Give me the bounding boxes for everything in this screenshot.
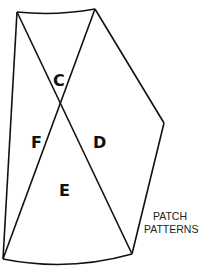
left-edge (3, 12, 17, 259)
patch-label-c: C (53, 71, 65, 90)
caption-line-2: PATTERNS (144, 223, 198, 235)
pattern-outline (3, 9, 164, 264)
bottom-edge-curve (3, 254, 132, 264)
patch-label-d: D (93, 133, 106, 152)
top-edge-curve (17, 9, 95, 13)
patch-label-e: E (59, 181, 70, 200)
diagonal-topright-bottomleft (3, 9, 95, 259)
caption-line-1: PATCH (153, 210, 187, 222)
patch-patterns-diagram: C F D E PATCH PATTERNS (0, 0, 216, 271)
right-upper-edge (95, 9, 164, 123)
patch-label-f: F (31, 133, 42, 152)
